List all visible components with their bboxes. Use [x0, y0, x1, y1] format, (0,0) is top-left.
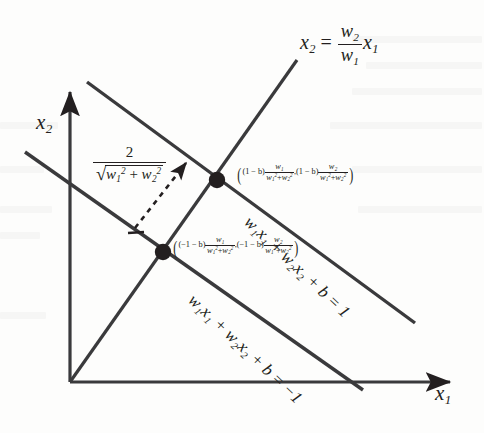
slope-rhs: x	[363, 31, 372, 53]
lower-coord-factor-1: (−1 − b)	[178, 240, 205, 249]
margin-fraction: 2 √ w12 + w22	[93, 145, 166, 184]
margin-width-label: 2 √ w12 + w22	[93, 145, 166, 184]
x-axis-label-subscript: 1	[445, 392, 452, 407]
y-axis-label-subscript: 2	[46, 121, 53, 136]
margin-width-tick	[128, 232, 144, 233]
diagram-svg	[0, 0, 484, 433]
slope-relation: =	[320, 31, 331, 53]
upper-coord-fraction-2: w2 w12+w22	[318, 163, 347, 182]
y-axis-label-symbol: x	[36, 110, 45, 134]
margin-radical: √ w12 + w22	[96, 165, 163, 184]
radical-body: w12 + w22	[105, 165, 163, 184]
x-axis-label: x1	[435, 383, 451, 406]
x-axis-label-symbol: x	[435, 381, 444, 405]
slope-equation: x2 = w2 w1 x1	[300, 22, 378, 67]
slope-lhs: x	[300, 31, 309, 53]
slope-rhs-subscript: 1	[372, 42, 378, 56]
upper-coord-factor-1: (1 − b)	[242, 167, 264, 176]
lower-support-point	[155, 244, 171, 260]
upper-support-point	[209, 172, 225, 188]
upper-coord-fraction-1: w1 w12+w22	[265, 163, 294, 182]
margin-numerator: 2	[93, 145, 166, 163]
y-axis-label: x2	[36, 112, 52, 135]
slope-fraction-denominator: w1	[338, 45, 362, 67]
slope-fraction-numerator: w2	[338, 22, 362, 45]
figure-canvas: x2 x1 x2 = w2 w1 x1 2 √ w12 + w22 ((1 − …	[0, 0, 484, 433]
upper-coord-factor-2: (1 − b)	[296, 167, 318, 176]
lower-coord-fraction-1: w1 w12+w22	[205, 236, 234, 255]
slope-fraction: w2 w1	[338, 22, 362, 67]
radical-sign: √	[96, 165, 106, 184]
upper-point-coordinate-label: ((1 − b) w1 w12+w22 ,(1 − b) w2 w12+w22 …	[236, 163, 354, 182]
slope-lhs-subscript: 2	[309, 42, 315, 56]
margin-denominator: √ w12 + w22	[93, 163, 166, 184]
